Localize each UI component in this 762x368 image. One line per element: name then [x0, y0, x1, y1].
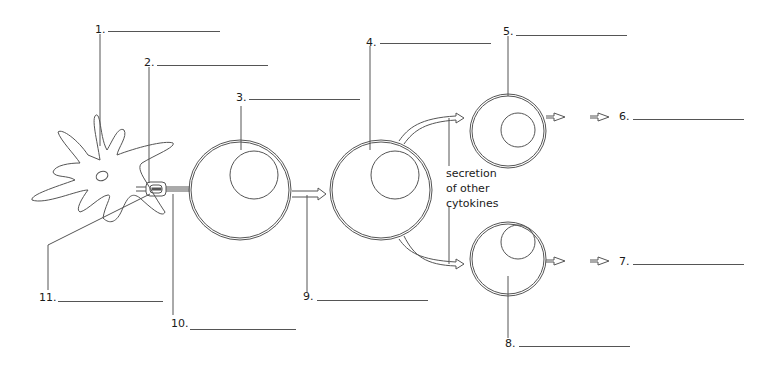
label-6-number: 6. — [619, 111, 630, 123]
label-9-answer-blank[interactable] — [317, 300, 428, 301]
diagram-canvas — [0, 0, 762, 368]
label-9-number: 9. — [303, 291, 314, 303]
arrow-cell5-out — [546, 113, 565, 121]
annotation-line-3: cytokines — [446, 196, 499, 211]
label-4-answer-blank[interactable] — [380, 43, 491, 44]
label-5-number: 5. — [503, 26, 514, 38]
arrow-cell8-out — [546, 257, 565, 265]
cell-3-nucleus — [230, 151, 278, 199]
label-5-answer-blank[interactable] — [516, 35, 627, 36]
cell-4-nucleus — [371, 151, 419, 199]
label-8-answer-blank[interactable] — [519, 346, 630, 347]
label-2-answer-blank[interactable] — [157, 65, 268, 66]
dendritic-cell — [32, 115, 173, 222]
arrow-to-7 — [590, 257, 609, 265]
label-6-answer-blank[interactable] — [633, 119, 744, 120]
label-11-number: 11. — [39, 292, 57, 304]
cell-5-nucleus — [501, 113, 535, 147]
label-7-answer-blank[interactable] — [633, 264, 744, 265]
label-8-number: 8. — [505, 338, 516, 350]
annotation-line-1: secretion — [446, 166, 499, 181]
label-3-number: 3. — [236, 92, 247, 104]
cytokine-annotation: secretion of other cytokines — [446, 166, 499, 211]
label-10-number: 10. — [171, 318, 189, 330]
label-3-answer-blank[interactable] — [249, 99, 360, 100]
arrow-to-6 — [590, 113, 609, 121]
label-4-number: 4. — [366, 37, 377, 49]
label-10-answer-blank[interactable] — [190, 329, 296, 330]
label-1-answer-blank[interactable] — [108, 31, 220, 32]
cell-8-nucleus — [501, 225, 535, 259]
dendritic-cell-nucleus — [95, 170, 109, 183]
label-2-number: 2. — [144, 57, 155, 69]
arrow-4-to-8 — [399, 236, 464, 269]
arrow-4-to-5 — [399, 113, 464, 144]
arrow-3-to-4 — [292, 188, 326, 200]
label-7-number: 7. — [619, 256, 630, 268]
label-1-number: 1. — [95, 24, 106, 36]
label-11-answer-blank[interactable] — [58, 301, 163, 302]
annotation-line-2: of other — [446, 181, 499, 196]
